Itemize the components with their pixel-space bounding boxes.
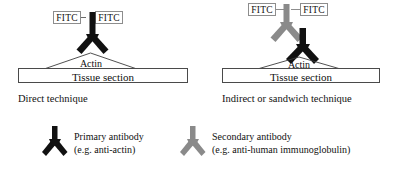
legend-primary-antibody-line1: Primary antibody [74, 131, 144, 142]
legend-secondary-antibody-icon [179, 126, 207, 158]
panel-indirect-caption: Indirect or sandwich technique [222, 92, 352, 105]
panel-direct-caption: Direct technique [18, 92, 88, 105]
legend-primary-antibody-line2: (e.g. anti-actin) [74, 144, 144, 157]
panel-indirect-tissue-section: Tissue section [222, 68, 380, 83]
legend-secondary-antibody-line1: Secondary antibody [212, 131, 292, 142]
legend-primary-antibody-icon [41, 126, 69, 158]
legend-secondary-antibody-line2: (e.g. anti-human immunoglobulin) [212, 144, 350, 157]
legend-secondary-antibody-text: Secondary antibody (e.g. anti-human immu… [212, 131, 350, 156]
panel-direct-tissue-section: Tissue section [18, 68, 188, 83]
immunofluorescence-diagram: FITC FITC Actin Tissue section [0, 0, 400, 170]
legend-primary-antibody-text: Primary antibody (e.g. anti-actin) [74, 131, 144, 156]
